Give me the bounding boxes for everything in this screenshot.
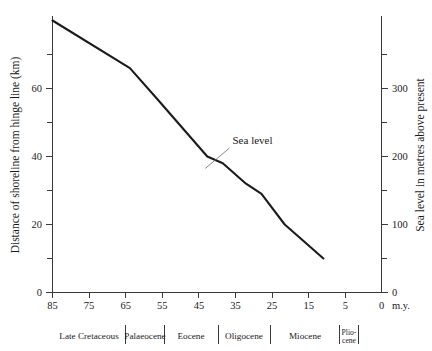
right-axis-title: Sea level in metres above present xyxy=(414,77,427,231)
sea-level-curve xyxy=(53,21,324,259)
left-axis-tick-label-40: 40 xyxy=(32,151,43,162)
epoch-label-oligocene: Oligocene xyxy=(225,331,263,341)
x-axis-tick-label-75: 75 xyxy=(84,300,95,311)
right-axis-tick-label-100: 100 xyxy=(392,219,408,230)
x-axis-tick-label-5: 5 xyxy=(343,300,348,311)
x-axis-unit-label: m.y. xyxy=(392,300,410,311)
x-axis-tick-label-15: 15 xyxy=(303,300,314,311)
x-axis-tick-label-0: 0 xyxy=(379,300,384,311)
left-axis-title: Distance of shoreline from hinge line (k… xyxy=(9,56,22,253)
epoch-label-late-cretaceous: Late Cretaceous xyxy=(59,331,119,341)
epoch-label-pliocene-line2: cene xyxy=(342,336,357,345)
left-axis-tick-label-60: 60 xyxy=(32,83,43,94)
chart-figure: 0 20 40 60 Distance of shoreline from hi… xyxy=(0,0,432,351)
right-axis-tick-label-300: 300 xyxy=(392,83,408,94)
left-axis-tick-label-20: 20 xyxy=(32,219,43,230)
epoch-label-palaeocene: Palaeocene xyxy=(124,331,165,341)
sea-level-line-chart: 0 20 40 60 Distance of shoreline from hi… xyxy=(0,0,432,351)
x-axis-tick-label-85: 85 xyxy=(47,300,58,311)
x-axis-tick-label-35: 35 xyxy=(230,300,241,311)
sea-level-annotation-label: Sea level xyxy=(233,134,273,146)
x-axis-tick-label-45: 45 xyxy=(194,300,205,311)
right-axis-tick-label-0: 0 xyxy=(392,287,397,298)
x-axis-tick-label-65: 65 xyxy=(120,300,131,311)
epoch-label-miocene: Miocene xyxy=(289,331,321,341)
x-axis-tick-label-25: 25 xyxy=(267,300,278,311)
right-axis-tick-label-200: 200 xyxy=(392,151,408,162)
left-axis-tick-label-0: 0 xyxy=(37,287,42,298)
epoch-label-eocene: Eocene xyxy=(177,331,204,341)
x-axis-tick-label-55: 55 xyxy=(157,300,168,311)
